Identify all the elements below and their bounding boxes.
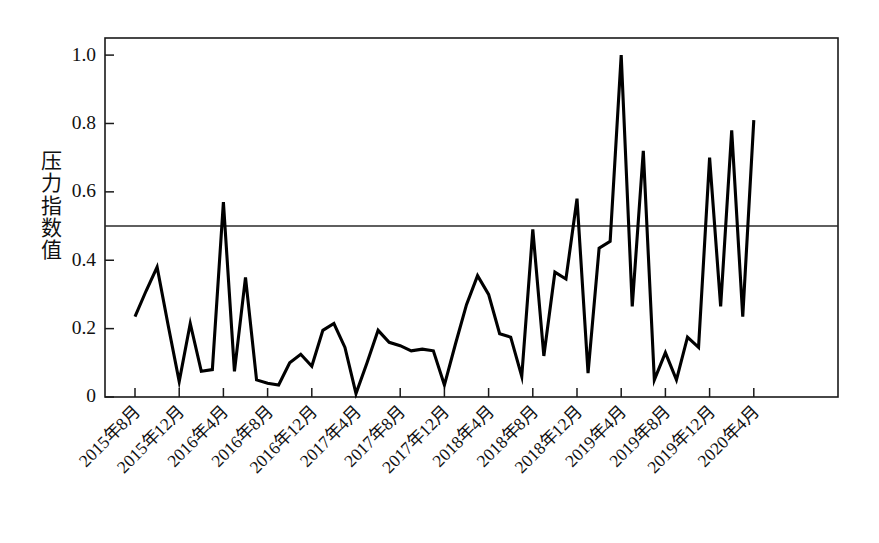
y-tick-label: 0.6 [72, 180, 97, 201]
y-tick-label: 0.4 [72, 249, 97, 270]
y-tick-label: 1.0 [72, 44, 96, 65]
line-chart: 00.20.40.60.81.0 2015年8月2015年12月2016年4月2… [0, 0, 879, 543]
x-axis-labels: 2015年8月2015年12月2016年4月2016年8月2016年12月201… [75, 402, 763, 477]
chart-figure: 压 力 指 数 值 00.20.40.60.81.0 2015年8月2015年1… [0, 0, 879, 543]
y-tick-label: 0.8 [72, 112, 96, 133]
y-tick-label: 0.2 [72, 317, 96, 338]
data-series-group [135, 55, 754, 393]
y-axis-ticks: 00.20.40.60.81.0 [72, 44, 114, 407]
series-line-pressure-index [135, 55, 754, 393]
y-tick-label: 0 [86, 385, 96, 406]
